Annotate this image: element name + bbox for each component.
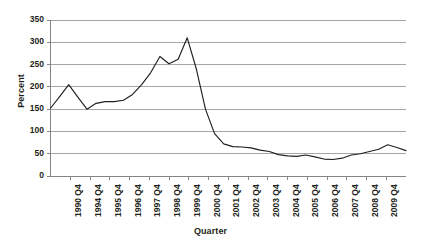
gridlines xyxy=(51,20,407,154)
y-axis-ticks xyxy=(47,20,51,176)
line-chart: Percent Quarter 050100150200250300350 19… xyxy=(0,0,421,243)
axis-lines xyxy=(51,20,407,176)
plot-area xyxy=(0,0,421,243)
data-series-line xyxy=(51,38,407,160)
x-axis-ticks xyxy=(70,176,386,180)
